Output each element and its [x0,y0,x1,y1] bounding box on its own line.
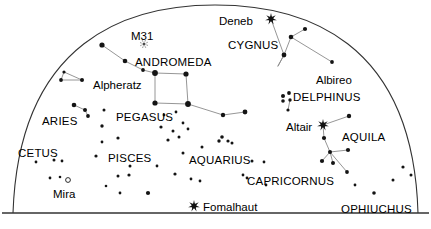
star-dot [322,136,326,140]
star-dot [117,175,120,178]
star-dot [80,78,84,82]
constellation-line [155,103,188,104]
dome-arc [13,5,418,213]
star-dot [286,108,289,111]
star-dot [263,161,266,164]
star-dot [221,113,225,117]
starburst-core [192,204,197,209]
star-dot [156,165,159,168]
constellation-label-cygnus: CYGNUS [228,40,278,52]
constellation-label-ophiuchus: OPHIUCHUS [341,204,412,216]
nebula-ray [140,43,141,44]
constellation-label-aquarius: AQUARIUS [189,155,251,167]
star-dot [152,100,157,105]
constellation-label-pisces: PISCES [108,153,151,165]
star-dot [100,124,103,127]
star-dot [175,111,178,114]
star-dot [243,110,248,115]
nebula-core [143,43,146,46]
star-dot [49,177,52,180]
star-dot [86,114,90,118]
star-dot [166,138,169,141]
star-dot [123,59,128,64]
constellation-line [188,104,245,115]
star-dot [72,103,77,108]
star-dot [159,125,162,128]
star-dot [320,159,324,163]
star-dot [59,78,63,82]
constellation-label-andromeda: ANDROMEDA [135,57,212,69]
star-dot [289,35,294,40]
constellation-line [155,73,186,74]
star-label-altair: Altair [286,122,312,134]
star-dot [127,173,130,176]
star-dot [201,146,204,149]
star-dot [116,136,119,139]
star-dot [173,172,176,175]
star-dot [183,71,188,76]
star-dot [401,165,404,168]
star-dot [101,141,104,144]
constellation-line [322,150,348,161]
star-dot [105,185,108,188]
constellation-label-aquila: AQUILA [342,132,385,144]
star-dot [178,136,181,139]
star-dot [185,101,191,107]
star-dot [119,192,122,195]
star-dot [330,60,334,64]
star-dot [187,128,190,131]
star-dot [129,165,132,168]
star-dot [331,161,335,165]
star-dot [346,148,350,152]
star-dot [410,174,413,177]
star-dot [94,154,97,157]
star-dot [182,152,185,155]
star-dot [103,109,106,112]
constellation-line [278,29,305,66]
star-dot [220,135,224,139]
star-dot [231,142,234,145]
star-dot [392,179,395,182]
star-dot [141,68,145,72]
star-dot [345,170,349,174]
constellation-label-pegasus: PEGASUS [116,112,173,124]
constellation-label-cetus: CETUS [18,148,58,160]
star-dot [190,178,193,181]
star-dot [226,139,229,142]
constellation-line [323,116,349,125]
star-dot [59,176,62,179]
star-label-albireo: Albireo [316,75,352,87]
star-dot [62,70,65,73]
star-dot [217,139,220,142]
star-dot [281,94,285,98]
constellation-label-capricornus: CAPRICORNUS [247,176,334,188]
object-label-m31: M31 [131,31,153,43]
star-dot [152,70,158,76]
star-dot [354,184,357,187]
variable-star-mira [66,178,71,183]
star-dot [303,27,307,31]
star-dot [172,130,175,133]
star-dot [146,191,150,195]
star-dot [35,161,38,164]
nebula-ray [143,46,144,47]
nebula-ray [146,45,147,46]
nebula-ray [145,46,146,47]
star-label-deneb: Deneb [219,16,253,28]
starburst-core [321,123,326,128]
bright-star-deneb [265,13,277,24]
constellation-line [291,37,332,62]
constellation-label-delphinus: DELPHINUS [293,92,361,104]
star-dot [328,150,332,154]
starburst-core [269,17,274,22]
star-dot [99,42,104,47]
star-dot [288,98,291,101]
star-dot [199,180,202,183]
stars-layer [35,27,413,195]
star-label-fomalhaut: Fomalhaut [203,202,257,214]
star-dot [372,191,376,195]
star-dot [282,53,287,58]
star-dot [182,122,185,125]
star-dot [281,99,285,103]
star-label-alpheratz: Alpheratz [93,80,142,92]
